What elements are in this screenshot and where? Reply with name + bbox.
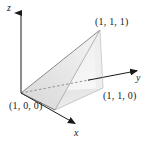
axis-label-y: y — [136, 73, 140, 83]
point-label-1-0-0: (1, 0, 0) — [9, 101, 42, 111]
point-label-1-1-1: (1, 1, 1) — [95, 17, 128, 27]
point-label-1-1-0: (1, 1, 0) — [103, 91, 136, 101]
axis-label-x: x — [74, 128, 78, 138]
figure-3d-region: z y x (1, 1, 1) (1, 1, 0) (1, 0, 0) — [0, 0, 151, 142]
axis-label-z: z — [7, 3, 11, 13]
